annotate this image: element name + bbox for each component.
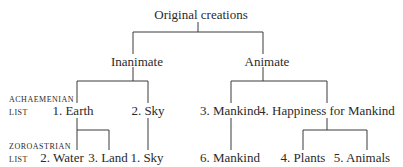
node-sky-2: 1. Sky <box>130 151 163 164</box>
node-happiness-for-mankind: 4. Happiness for Mankind <box>259 104 395 117</box>
node-sky: 2. Sky <box>131 104 164 117</box>
row-label-zoroastrian-list: LIST <box>9 156 28 164</box>
node-plants: 4. Plants <box>281 151 326 164</box>
node-land: 3. Land <box>88 151 128 164</box>
node-earth: 1. Earth <box>52 104 93 117</box>
node-original-creations: Original creations <box>154 8 248 21</box>
node-water: 2. Water <box>40 151 83 164</box>
node-animate: Animate <box>245 55 290 68</box>
node-mankind-2: 6. Mankind <box>200 151 260 164</box>
node-inanimate: Inanimate <box>111 55 163 68</box>
node-mankind: 3. Mankind <box>200 104 260 117</box>
row-label-achaemenian-list: LIST <box>9 109 28 117</box>
node-animals: 5. Animals <box>334 151 390 164</box>
